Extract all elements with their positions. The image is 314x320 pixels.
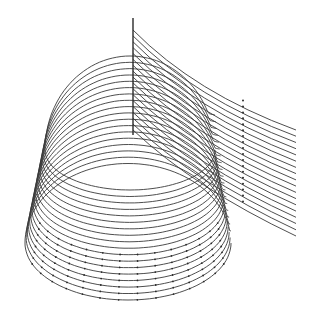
marker-dot: [154, 252, 156, 254]
marker-dot: [242, 147, 244, 149]
marker-dot: [189, 288, 191, 290]
marker-dot: [210, 242, 212, 244]
marker-dot: [118, 280, 120, 282]
marker-dot: [242, 111, 244, 113]
marker-dot: [200, 250, 202, 252]
marker-dot: [102, 252, 104, 254]
marker-dot: [214, 272, 216, 274]
marker-dot: [155, 291, 157, 293]
marker-dot: [242, 153, 244, 155]
marker-dot: [51, 281, 53, 283]
marker-dot: [118, 299, 120, 301]
marker-dot: [187, 263, 189, 265]
marker-dot: [171, 255, 173, 257]
marker-dots: [31, 100, 244, 301]
marker-dot: [242, 100, 244, 102]
marker-dot: [52, 275, 54, 277]
marker-dot: [82, 293, 84, 295]
marker-dot: [58, 238, 60, 240]
marker-dot: [43, 254, 45, 256]
marker-dot: [186, 256, 188, 258]
marker-dot: [198, 238, 200, 240]
marker-dot: [102, 258, 104, 260]
marker-dot: [44, 248, 46, 250]
marker-dot: [47, 230, 49, 232]
marker-dot: [242, 201, 244, 203]
marker-dot: [202, 275, 204, 277]
marker-dot: [31, 263, 33, 265]
marker-dot: [39, 222, 41, 224]
marker-dot: [99, 297, 101, 299]
marker-dot: [119, 260, 121, 262]
marker-dot: [171, 261, 173, 263]
marker-dot: [186, 250, 188, 252]
marker-dot: [46, 236, 48, 238]
marker-dot: [212, 254, 214, 256]
marker-dot: [38, 228, 40, 230]
wireframe-diagram: [0, 0, 314, 320]
marker-dot: [137, 286, 139, 288]
marker-dot: [137, 254, 139, 256]
marker-dot: [71, 244, 73, 246]
marker-dot: [119, 273, 121, 275]
marker-dot: [242, 129, 244, 131]
marker-dot: [68, 263, 70, 265]
marker-dot: [100, 291, 102, 293]
marker-dot: [65, 288, 67, 290]
marker-dot: [34, 251, 36, 253]
marker-dot: [42, 260, 44, 262]
marker-dot: [202, 268, 204, 270]
marker-dot: [242, 123, 244, 125]
marker-dot: [242, 189, 244, 191]
marker-dot: [32, 257, 34, 259]
marker-dot: [201, 262, 203, 264]
marker-dot: [213, 260, 215, 262]
marker-dot: [242, 159, 244, 161]
marker-dot: [101, 271, 103, 273]
marker-dot: [210, 236, 212, 238]
marker-dot: [199, 244, 201, 246]
marker-dot: [85, 255, 87, 257]
marker-dot: [242, 141, 244, 143]
marker-dot: [223, 263, 225, 265]
marker-dot: [187, 269, 189, 271]
marker-dot: [242, 183, 244, 185]
marker-dot: [173, 293, 175, 295]
marker-dot: [242, 177, 244, 179]
marker-dot: [36, 240, 38, 242]
marker-dot: [53, 268, 55, 270]
marker-dot: [170, 249, 172, 251]
marker-dot: [154, 271, 156, 273]
marker-dot: [242, 171, 244, 173]
marker-dot: [188, 282, 190, 284]
marker-dot: [70, 250, 72, 252]
marker-dot: [83, 281, 85, 283]
marker-dot: [219, 234, 221, 236]
marker-dot: [214, 266, 216, 268]
marker-dot: [84, 268, 86, 270]
marker-dot: [242, 105, 244, 107]
marker-dot: [40, 272, 42, 274]
marker-dot: [172, 281, 174, 283]
marker-dot: [203, 281, 205, 283]
marker-dot: [211, 248, 213, 250]
marker-dot: [209, 230, 211, 232]
band-surface-drawing: [0, 0, 314, 320]
marker-dot: [68, 269, 70, 271]
marker-dot: [45, 242, 47, 244]
marker-dot: [83, 274, 85, 276]
marker-dot: [218, 228, 220, 230]
marker-dot: [137, 273, 139, 275]
marker-dot: [220, 246, 222, 248]
marker-dot: [137, 280, 139, 282]
marker-dot: [155, 297, 157, 299]
band-lines: [25, 56, 231, 300]
marker-dot: [222, 257, 224, 259]
marker-dot: [119, 254, 121, 256]
marker-dot: [54, 262, 56, 264]
marker-dot: [67, 275, 69, 277]
marker-dot: [56, 250, 58, 252]
marker-dot: [221, 251, 223, 253]
marker-dot: [41, 266, 43, 268]
marker-dot: [37, 234, 39, 236]
